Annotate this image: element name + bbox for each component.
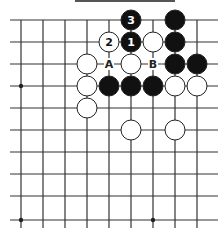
black-stone — [143, 76, 163, 96]
white-stone — [121, 120, 141, 140]
white-stone — [143, 32, 163, 52]
white-stone — [77, 54, 97, 74]
black-stone — [165, 32, 185, 52]
white-stone — [165, 120, 185, 140]
hoshi-point — [151, 218, 155, 222]
black-stone — [121, 76, 141, 96]
hoshi-point — [19, 84, 23, 88]
white-stone — [77, 98, 97, 118]
black-stone — [99, 76, 119, 96]
move-number-1: 1 — [127, 36, 135, 49]
black-stone — [165, 10, 185, 30]
move-number-3: 3 — [127, 14, 135, 27]
go-board: AB321 — [0, 0, 224, 229]
white-stone — [77, 76, 97, 96]
point-label-b: B — [149, 58, 157, 71]
white-stone — [165, 76, 185, 96]
white-stone — [121, 54, 141, 74]
black-stone — [187, 54, 207, 74]
white-stone — [187, 76, 207, 96]
point-label-a: A — [105, 58, 114, 71]
move-number-2: 2 — [105, 36, 113, 49]
black-stone — [165, 54, 185, 74]
hoshi-point — [19, 218, 23, 222]
